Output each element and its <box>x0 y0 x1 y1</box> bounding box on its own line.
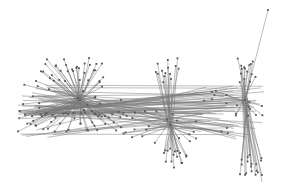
cross-edge <box>20 134 229 135</box>
leaf-node <box>87 130 89 132</box>
leaf-node <box>80 113 82 115</box>
leaf-node <box>32 120 34 122</box>
leaf-node <box>261 157 263 159</box>
leaf-node <box>76 66 78 68</box>
leaf-node <box>169 148 171 150</box>
leaf-node <box>214 94 216 96</box>
leaf-node <box>170 78 172 80</box>
leaf-node <box>30 123 32 125</box>
leaf-node <box>120 99 122 101</box>
leaf-node <box>174 151 176 153</box>
leaf-node <box>177 57 179 59</box>
leaf-node <box>249 154 251 156</box>
leaf-node <box>181 162 183 164</box>
leaf-node <box>19 110 21 112</box>
leaf-node <box>35 125 37 127</box>
leaf-node <box>102 76 104 78</box>
leaf-node <box>248 64 250 66</box>
leaf-node <box>227 132 229 134</box>
leaf-node <box>261 105 263 107</box>
leaf-node <box>113 121 115 123</box>
leaf-node <box>49 77 51 79</box>
leaf-node <box>89 64 91 66</box>
leaf-node <box>82 90 84 92</box>
leaf-node <box>144 110 146 112</box>
leaf-node <box>248 101 250 103</box>
leaf-node <box>248 106 250 108</box>
leaf-node <box>145 129 147 131</box>
leaf-node <box>42 71 44 73</box>
leaf-node <box>195 121 197 123</box>
leaf-node <box>101 63 103 65</box>
leaf-node <box>122 112 124 114</box>
leaf-node <box>108 117 110 119</box>
leaf-node <box>236 104 238 106</box>
leaf-node <box>118 111 120 113</box>
leaf-node <box>42 128 44 130</box>
leaf-node <box>249 81 251 83</box>
leaf-node <box>239 81 241 83</box>
leaf-node <box>166 119 168 121</box>
leaf-node <box>239 173 241 175</box>
leaf-node <box>101 116 103 118</box>
leaf-node <box>68 129 70 131</box>
leaf-node <box>240 65 242 67</box>
leaf-node <box>40 70 42 72</box>
leaf-node <box>241 159 243 161</box>
leaf-node <box>95 63 97 65</box>
leaf-node <box>255 114 257 116</box>
leaf-node <box>250 63 252 65</box>
cross-edge <box>47 88 244 89</box>
leaf-node <box>99 114 101 116</box>
leaf-node <box>256 170 258 172</box>
leaf-node <box>72 112 74 114</box>
hub-node <box>169 124 171 126</box>
leaf-node <box>131 117 133 119</box>
leaf-node <box>31 115 33 117</box>
leaf-node <box>240 73 242 75</box>
leaf-node <box>185 154 187 156</box>
leaf-node <box>67 70 69 72</box>
leaf-node <box>72 70 74 72</box>
leaf-node <box>195 138 197 140</box>
leaf-node <box>65 64 67 66</box>
leaf-node <box>80 123 82 125</box>
leaf-node <box>115 130 117 132</box>
leaf-node <box>246 71 248 73</box>
leaf-node <box>167 67 169 69</box>
leaf-node <box>120 126 122 128</box>
leaf-node <box>157 73 159 75</box>
leaf-node <box>104 123 106 125</box>
leaf-node <box>164 75 166 77</box>
leaf-node <box>243 78 245 80</box>
leaf-node <box>125 132 127 134</box>
leaf-node <box>32 95 34 97</box>
leaf-node <box>165 161 167 163</box>
leaf-node <box>249 108 251 110</box>
leaf-node <box>226 94 228 96</box>
leaf-node <box>252 61 254 63</box>
leaf-node <box>161 70 163 72</box>
leaf-node <box>257 172 259 174</box>
edges-layer <box>18 10 268 182</box>
leaf-node <box>17 130 19 132</box>
leaf-node <box>101 86 103 88</box>
hub-node <box>244 99 246 101</box>
leaf-node <box>79 79 81 81</box>
leaf-node <box>111 113 113 115</box>
leaf-node <box>46 112 48 114</box>
leaf-node <box>54 117 56 119</box>
leaf-node <box>178 137 180 139</box>
leaf-node <box>260 160 262 162</box>
leaf-node <box>164 72 166 74</box>
leaf-node <box>193 131 195 133</box>
leaf-node <box>262 114 264 116</box>
leaf-node <box>38 102 40 104</box>
leaf-node <box>164 149 166 151</box>
leaf-node <box>84 112 86 114</box>
leaf-node <box>60 70 62 72</box>
leaf-node <box>59 123 61 125</box>
leaf-node <box>235 113 237 115</box>
leaf-node <box>226 127 228 129</box>
leaf-node <box>225 102 227 104</box>
